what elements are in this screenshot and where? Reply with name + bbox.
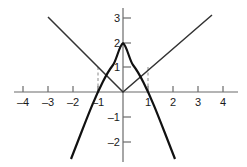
x-tick-label-1: 1 xyxy=(145,97,151,108)
x-tick-label-neg2: –2 xyxy=(67,97,79,108)
x-tick-label-4: 4 xyxy=(220,97,226,108)
absolute-value-curve xyxy=(48,15,212,92)
y-tick-label-neg2: –2 xyxy=(108,137,120,148)
y-tick-label-3: 3 xyxy=(114,13,120,24)
x-tick-label-2: 2 xyxy=(170,97,176,108)
y-tick-label-1: 1 xyxy=(114,62,120,73)
x-tick-label-neg1: –1 xyxy=(92,97,104,108)
x-tick-label-neg4: –4 xyxy=(17,97,29,108)
chart-figure: –4 –3 –2 –1 1 2 3 4 3 2 1 –1 –2 xyxy=(0,0,247,167)
x-tick-label-neg3: –3 xyxy=(42,97,54,108)
y-tick-label-neg1: –1 xyxy=(108,112,120,123)
x-tick-label-3: 3 xyxy=(195,97,201,108)
y-tick-marks xyxy=(123,18,131,142)
y-tick-label-2: 2 xyxy=(114,38,120,49)
plot-area xyxy=(0,0,247,167)
